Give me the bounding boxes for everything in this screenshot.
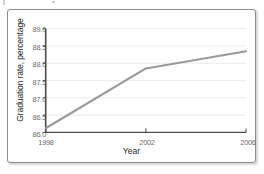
plot-canvas <box>8 10 255 162</box>
gridlines <box>46 29 246 115</box>
scan-artifacts <box>0 0 264 9</box>
data-series-line <box>46 51 246 128</box>
scan-speck-mid <box>52 1 55 3</box>
line-chart: Graduation rate, percentage 86.086.587.0… <box>8 10 255 162</box>
chart-figure-frame: Graduation rate, percentage 86.086.587.0… <box>7 9 256 163</box>
scan-speck-left <box>3 0 5 5</box>
x-axis-title: Year <box>8 146 255 156</box>
